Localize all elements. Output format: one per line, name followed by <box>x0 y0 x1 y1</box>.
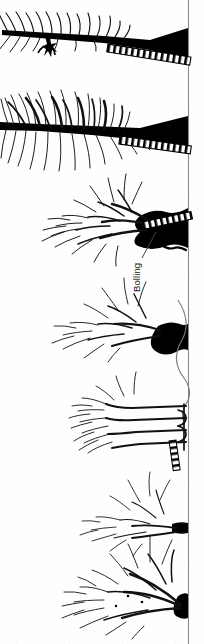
bolling-label: Bolling <box>131 263 142 292</box>
canvas-background <box>0 0 204 644</box>
diagram-canvas: Bolling <box>0 0 204 644</box>
figure-root: Bolling <box>0 0 204 644</box>
bolling-label-text: Bolling <box>131 263 142 292</box>
